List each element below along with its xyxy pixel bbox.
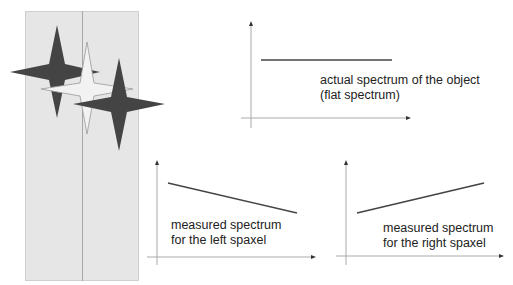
bottom-left-label-line1: measured spectrum (171, 218, 281, 233)
bottom-left-label-line2: for the left spaxel (171, 233, 281, 248)
bottom-right-label-line2: for the right spaxel (383, 236, 493, 251)
bottom-left-plot (147, 160, 316, 265)
top-plot-label-line2: (flat spectrum) (320, 88, 480, 103)
top-plot-label: actual spectrum of the object (flat spec… (320, 73, 480, 103)
bottom-right-plot-label: measured spectrum for the right spaxel (383, 221, 493, 251)
left-spaxel-spectrum-line (168, 183, 297, 213)
top-plot-label-line1: actual spectrum of the object (320, 73, 480, 88)
bottom-left-plot-label: measured spectrum for the left spaxel (171, 218, 281, 248)
bottom-right-label-line1: measured spectrum (383, 221, 493, 236)
right-spaxel-spectrum-line (357, 183, 484, 213)
